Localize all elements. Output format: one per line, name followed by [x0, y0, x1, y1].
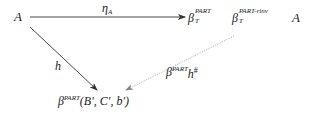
dotted-arrow	[126, 36, 234, 90]
node-a-tail: A	[292, 10, 300, 25]
beta-2-sub: T	[239, 18, 243, 25]
node-bottom: βPART(B′, C′, b′)	[58, 95, 129, 107]
node-composite: β PART T β PART-rinv T A	[188, 11, 300, 24]
node-a: A	[14, 10, 22, 23]
beta-2-sup: PART-rinv	[239, 8, 268, 15]
bottom-beta-sup: PART	[64, 94, 80, 102]
eta-subscript: A	[108, 8, 112, 16]
h-label: h	[55, 60, 61, 72]
beta-1: β	[188, 11, 194, 25]
beta-2: β	[232, 11, 238, 25]
dotted-beta-sup: PART	[172, 65, 188, 73]
beta-1-sub: T	[195, 18, 199, 25]
bottom-args: (B′, C′, b′)	[80, 94, 129, 108]
dotted-label: βPARTh#	[166, 66, 198, 78]
eta-label: ηA	[102, 2, 112, 14]
h-arrow	[30, 27, 97, 90]
dotted-h-sup: #	[194, 66, 198, 75]
dotted-h: h	[188, 67, 194, 81]
beta-1-sup: PART	[195, 8, 211, 15]
